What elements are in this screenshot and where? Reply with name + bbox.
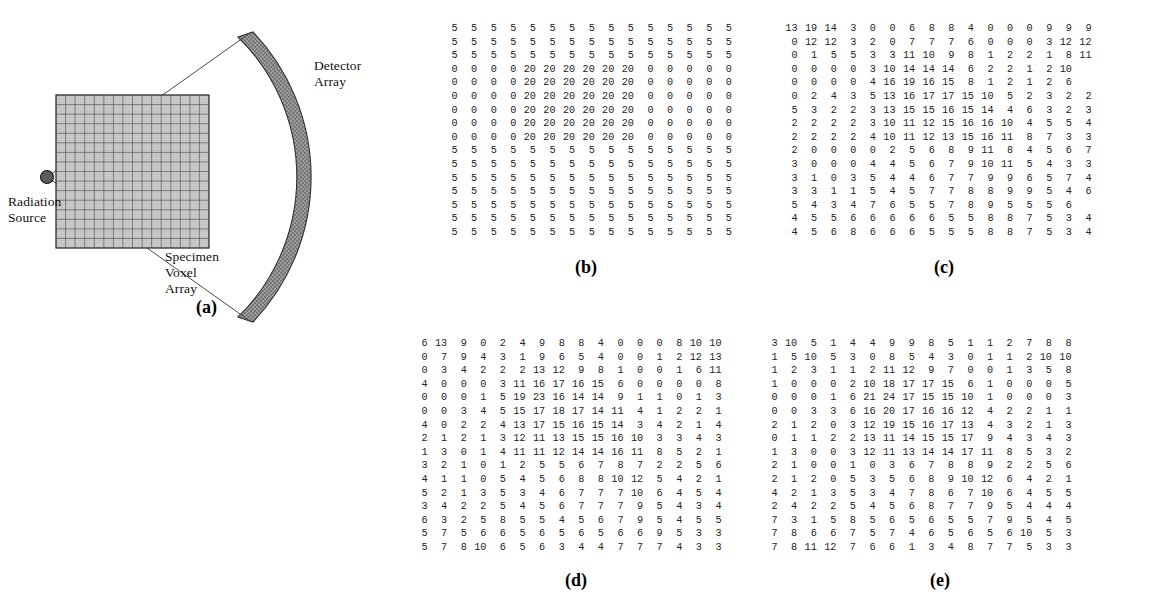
matrix-cell: 5 <box>673 226 693 240</box>
matrix-cell: 0 <box>447 391 467 405</box>
matrix-cell: 3 <box>428 514 448 528</box>
matrix-cell: 5 <box>693 199 713 213</box>
matrix-cell: 9 <box>1072 22 1092 36</box>
matrix-cell: 2 <box>817 104 837 118</box>
matrix-cell: 0 <box>974 22 994 36</box>
matrix-cell: 5 <box>595 144 615 158</box>
matrix-cell: 9 <box>974 459 994 473</box>
matrix-row: 555555555555555 <box>438 36 732 50</box>
matrix-cell: 5 <box>712 212 732 226</box>
matrix-cell: 14 <box>896 63 916 77</box>
matrix-cell: 6 <box>624 527 644 541</box>
matrix-cell: 11 <box>974 144 994 158</box>
matrix-cell: 5 <box>486 487 506 501</box>
matrix-cell: 8 <box>1032 337 1052 351</box>
matrix-cell: 0 <box>428 419 448 433</box>
matrix-cell: 4 <box>817 90 837 104</box>
matrix-cell: 5 <box>497 226 517 240</box>
matrix-cell: 2 <box>428 487 448 501</box>
matrix-cell: 11 <box>506 446 526 460</box>
matrix-cell: 5 <box>954 514 974 528</box>
matrix-row: 300044567910115433 <box>778 158 1092 172</box>
matrix-cell: 5 <box>994 199 1014 213</box>
matrix-cell: 0 <box>458 131 478 145</box>
matrix-cell: 6 <box>1013 104 1033 118</box>
matrix-cell: 3 <box>1013 364 1033 378</box>
matrix-cell: 10 <box>1052 63 1072 77</box>
matrix-cell: 6 <box>1052 76 1072 90</box>
matrix-cell: 6 <box>993 473 1013 487</box>
matrix-cell: 5 <box>438 185 458 199</box>
matrix-cell: 4 <box>663 541 683 555</box>
matrix-cell: 0 <box>778 405 798 419</box>
matrix-cell: 6 <box>408 514 428 528</box>
matrix-cell: 0 <box>438 76 458 90</box>
matrix-cell: 5 <box>438 172 458 186</box>
matrix-cell: 9 <box>915 364 935 378</box>
matrix-cell: 5 <box>458 185 478 199</box>
matrix-cell: 7 <box>935 36 955 50</box>
matrix-cell: 2 <box>876 144 896 158</box>
matrix-cell: 1 <box>467 432 487 446</box>
matrix-row: 0001621241715151010003 <box>758 391 1072 405</box>
matrix-cell: 9 <box>624 500 644 514</box>
matrix-cell: 11 <box>702 364 722 378</box>
matrix-cell: 6 <box>1013 172 1033 186</box>
matrix-cell: 0 <box>438 131 458 145</box>
matrix-cell: 5 <box>673 49 693 63</box>
matrix-cell: 20 <box>556 131 576 145</box>
matrix-cell: 6 <box>565 459 585 473</box>
matrix-cell: 0 <box>798 63 818 77</box>
matrix-cell: 1 <box>702 446 722 460</box>
matrix-cell: 1 <box>702 473 722 487</box>
matrix-cell: 2 <box>663 419 683 433</box>
matrix-cell: 1 <box>797 514 817 528</box>
matrix-row: 000020202020202000000 <box>438 90 732 104</box>
matrix-cell: 5 <box>477 22 497 36</box>
matrix-cell: 0 <box>428 391 448 405</box>
matrix-cell: 2 <box>778 364 798 378</box>
matrix-cell: 2 <box>1013 90 1033 104</box>
matrix-cell: 15 <box>565 432 585 446</box>
matrix-cell: 0 <box>837 158 857 172</box>
matrix-row: 20000256891184567 <box>778 144 1092 158</box>
matrix-cell: 5 <box>486 500 506 514</box>
matrix-row: 555555555555555 <box>438 144 732 158</box>
matrix-cell: 3 <box>1052 391 1072 405</box>
matrix-cell: 5 <box>438 144 458 158</box>
matrix-cell: 5 <box>497 49 517 63</box>
matrix-cell: 0 <box>654 104 674 118</box>
matrix-cell: 6 <box>545 351 565 365</box>
matrix-cell: 0 <box>758 405 778 419</box>
matrix-cell: 0 <box>458 90 478 104</box>
matrix-cell: 9 <box>934 473 954 487</box>
matrix-row: 22223101112151616104554 <box>778 117 1092 131</box>
matrix-cell: 13 <box>428 337 448 351</box>
matrix-cell: 7 <box>915 459 935 473</box>
matrix-cell: 5 <box>1033 117 1053 131</box>
matrix-cell: 2 <box>682 473 702 487</box>
matrix-cell: 8 <box>994 212 1014 226</box>
matrix-cell: 1 <box>758 378 778 392</box>
matrix-cell: 8 <box>915 473 935 487</box>
matrix-cell: 11 <box>896 131 916 145</box>
matrix-cell: 0 <box>817 158 837 172</box>
matrix-cell: 8 <box>447 541 467 555</box>
matrix-cell: 5 <box>1033 212 1053 226</box>
matrix-cell: 11 <box>624 446 644 460</box>
matrix-cell: 4 <box>584 541 604 555</box>
matrix-cell: 1 <box>954 337 974 351</box>
matrix-cell: 5 <box>526 459 546 473</box>
matrix-cell: 5 <box>595 158 615 172</box>
matrix-cell: 8 <box>545 337 565 351</box>
matrix-cell: 6 <box>565 527 585 541</box>
matrix-cell: 3 <box>663 432 683 446</box>
matrix-cell: 8 <box>915 22 935 36</box>
matrix-row: 5322313151516151446323 <box>778 104 1092 118</box>
matrix-cell: 0 <box>778 49 798 63</box>
matrix-row: 000020202020202000000 <box>438 131 732 145</box>
matrix-cell: 17 <box>954 446 974 460</box>
matrix-cell: 20 <box>614 76 634 90</box>
matrix-cell: 14 <box>604 419 624 433</box>
matrix-cell: 0 <box>1032 378 1052 392</box>
